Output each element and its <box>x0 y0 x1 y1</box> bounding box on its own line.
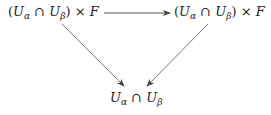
arrows-layer <box>0 0 271 115</box>
arrow-left-diagonal <box>62 24 124 86</box>
arrow-right-diagonal <box>147 24 208 86</box>
